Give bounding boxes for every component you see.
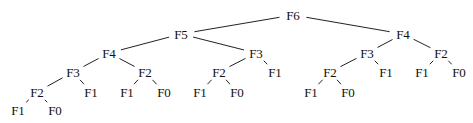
tree-node-f1: F1 bbox=[11, 103, 25, 118]
tree-node-f1: F1 bbox=[120, 85, 134, 100]
tree-node-f2: F2 bbox=[434, 46, 448, 61]
tree-node-f1: F1 bbox=[193, 85, 207, 100]
tree-node-f1: F1 bbox=[268, 65, 282, 80]
tree-node-f0: F0 bbox=[341, 85, 355, 100]
tree-node-f1: F1 bbox=[415, 65, 429, 80]
tree-node-f4: F4 bbox=[396, 27, 410, 42]
tree-node-f0: F0 bbox=[230, 85, 244, 100]
tree-node-f3: F3 bbox=[249, 46, 263, 61]
tree-node-f1: F1 bbox=[304, 85, 318, 100]
tree-node-f1: F1 bbox=[379, 65, 393, 80]
tree-node-f5: F5 bbox=[174, 27, 188, 42]
tree-node-f1: F1 bbox=[84, 85, 98, 100]
tree-node-f2: F2 bbox=[212, 65, 226, 80]
tree-node-f0: F0 bbox=[48, 103, 62, 118]
tree-node-f2: F2 bbox=[323, 65, 337, 80]
tree-node-f2: F2 bbox=[30, 85, 44, 100]
tree-node-f0: F0 bbox=[157, 85, 171, 100]
tree-node-f0: F0 bbox=[452, 65, 466, 80]
tree-node-f3: F3 bbox=[360, 46, 374, 61]
fibonacci-tree-diagram: F6F5F4F4F3F3F2F3F2F2F1F2F1F1F0F2F1F1F0F1… bbox=[0, 0, 473, 123]
diagram-background bbox=[0, 0, 473, 123]
tree-node-f3: F3 bbox=[66, 65, 80, 80]
tree-node-f4: F4 bbox=[102, 46, 116, 61]
tree-node-f2: F2 bbox=[138, 65, 152, 80]
tree-node-f6: F6 bbox=[286, 8, 300, 23]
